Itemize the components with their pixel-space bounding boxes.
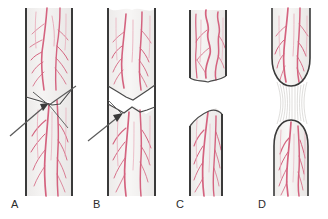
panel-label-b: B — [93, 198, 101, 210]
panel-label-c: C — [176, 198, 184, 210]
panel-label-d: D — [258, 198, 266, 210]
anatomical-figure — [0, 0, 328, 219]
panel-d-upper-bulb — [272, 8, 310, 86]
panel-label-a: A — [11, 198, 19, 210]
panel-b-upper-tissue — [108, 8, 155, 100]
